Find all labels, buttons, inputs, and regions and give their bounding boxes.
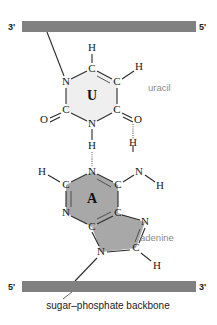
adenine-atom-c6: C xyxy=(114,178,121,190)
top-strand-right-prime-label: 5' xyxy=(199,22,206,32)
adenine-atom-h61: H xyxy=(129,136,137,148)
uracil-atom-c2: C xyxy=(62,103,69,115)
uracil-atom-o2: O xyxy=(40,113,48,125)
adenine-name-label: adenine xyxy=(140,232,174,243)
adenine-atom-h2: H xyxy=(38,165,46,177)
adenine-atom-n6: N xyxy=(135,165,143,177)
adenine-atom-n3: N xyxy=(62,206,70,218)
uracil-atom-h5: H xyxy=(135,60,143,72)
uracil-glycosidic-bond xyxy=(47,32,64,76)
adenine-bond-n6-h62 xyxy=(145,175,155,182)
uracil-atom-n3: N xyxy=(88,117,96,129)
backbone-caption-label: sugar–phosphate backbone xyxy=(46,300,170,311)
adenine-bond-c2-h xyxy=(48,175,60,182)
backbone-caption-leader xyxy=(63,292,72,299)
adenine-atom-h8: H xyxy=(153,259,161,271)
adenine-bond-c6-n6 xyxy=(123,175,134,182)
base-pair-diagram: 3' 5' N C C C N C O O xyxy=(0,0,217,325)
adenine-atom-n1: N xyxy=(88,165,96,177)
top-strand-left-prime-label: 3' xyxy=(8,22,15,32)
adenine-glycosidic-bond xyxy=(75,258,97,281)
uracil-center-letter: U xyxy=(87,88,97,103)
uracil-name-label: uracil xyxy=(148,82,171,93)
top-backbone-bar xyxy=(22,21,196,32)
adenine-atom-c8: C xyxy=(132,241,139,253)
adenine-atom-n7: N xyxy=(141,215,149,227)
uracil-atom-h3: H xyxy=(88,139,96,151)
adenine-atom-c2: C xyxy=(62,178,69,190)
bottom-strand-left-prime-label: 5' xyxy=(8,282,15,292)
adenine-center-letter: A xyxy=(87,191,98,206)
adenine-atom-c5: C xyxy=(114,206,121,218)
bottom-backbone-bar xyxy=(22,281,196,292)
adenine-atom-c4: C xyxy=(88,220,95,232)
adenine-atom-h62: H xyxy=(156,179,164,191)
adenine-atom-n9: N xyxy=(97,245,105,257)
adenine-bond-c8-h xyxy=(141,253,151,261)
uracil-atom-n1: N xyxy=(62,75,70,87)
figure-canvas: 3' 5' N C C C N C O O xyxy=(0,0,217,325)
uracil-atom-o4: O xyxy=(134,113,142,125)
uracil-atom-c5: C xyxy=(113,75,120,87)
uracil-bond-c5-h xyxy=(122,71,134,79)
uracil-atom-c4: C xyxy=(113,103,120,115)
uracil-atom-c6: C xyxy=(88,62,95,74)
uracil-atom-h6: H xyxy=(88,41,96,53)
bottom-strand-right-prime-label: 3' xyxy=(199,282,206,292)
